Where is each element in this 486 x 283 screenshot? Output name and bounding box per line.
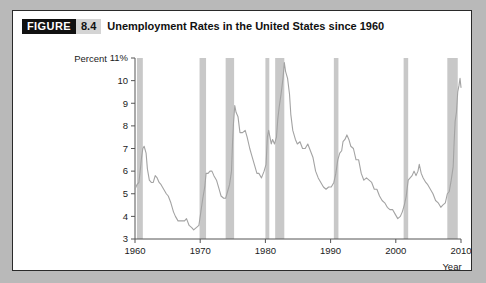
recession-band: [447, 58, 457, 239]
x-axis-ticks-group: 196019701980199020002010: [124, 239, 471, 256]
unemployment-line-chart: 34567891011% 196019701980199020002010 Pe…: [13, 11, 473, 272]
y-tick-label: 5: [123, 188, 128, 199]
y-tick-label: 9: [123, 98, 128, 109]
axis-lines-group: [135, 58, 461, 239]
recession-band: [137, 58, 143, 239]
recession-band: [404, 58, 409, 239]
x-tick-label: 1990: [320, 245, 341, 256]
y-tick-label: 7: [123, 143, 128, 154]
unemployment-rate-line: [135, 63, 461, 230]
x-tick-label: 1980: [255, 245, 276, 256]
recession-bands-group: [137, 58, 458, 239]
x-tick-label: 1960: [124, 245, 145, 256]
recession-band: [275, 58, 284, 239]
y-tick-label: 4: [123, 211, 128, 222]
y-tick-label: 10: [117, 75, 128, 86]
recession-band: [334, 58, 339, 239]
x-tick-label: 2010: [450, 245, 471, 256]
y-tick-label: 6: [123, 165, 128, 176]
x-axis-label: Year: [442, 261, 461, 272]
unemployment-series-group: [135, 63, 461, 230]
y-axis-label: Percent: [74, 53, 107, 64]
y-axis-ticks-group: 34567891011%: [110, 52, 135, 244]
chart-plot-area: 34567891011% 196019701980199020002010 Pe…: [13, 11, 473, 272]
x-tick-label: 2000: [385, 245, 406, 256]
y-tick-label: 11%: [110, 52, 129, 63]
y-tick-label: 3: [123, 233, 128, 244]
x-tick-label: 1970: [190, 245, 211, 256]
figure-card: FIGURE 8.4 Unemployment Rates in the Uni…: [12, 10, 472, 271]
y-tick-label: 8: [123, 120, 128, 131]
